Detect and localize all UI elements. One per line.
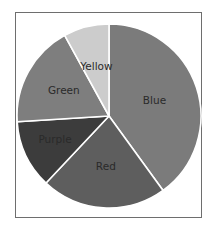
- slice-label-blue: Blue: [143, 94, 166, 106]
- pie-chart: BlueRedPurpleGreenYellow: [0, 0, 214, 233]
- slice-label-purple: Purple: [38, 133, 71, 145]
- slice-label-yellow: Yellow: [79, 60, 113, 72]
- slice-label-green: Green: [48, 84, 80, 96]
- slice-label-red: Red: [96, 160, 116, 172]
- pie-slices: [17, 24, 201, 208]
